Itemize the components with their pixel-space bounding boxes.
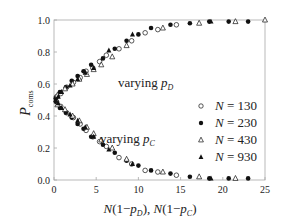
scatter-chart: 0.00.20.40.60.81.0 0510152025 varying pD… — [0, 0, 289, 224]
open-circle-marker — [174, 23, 179, 28]
y-axis-label: Pcoms — [18, 90, 35, 116]
filled-circle-marker — [101, 56, 106, 61]
filled-circle-marker — [188, 175, 193, 180]
x-tick-label: 20 — [218, 184, 228, 195]
y-tick-label: 0.6 — [38, 79, 51, 90]
open-circle-marker — [129, 39, 134, 44]
annotation-varying-pC: varying pC — [100, 131, 155, 148]
open-circle-marker — [156, 170, 161, 175]
open-triangle-marker — [233, 175, 238, 180]
filled-circle-marker — [199, 121, 203, 125]
open-triangle-marker — [197, 174, 202, 179]
open-circle-marker — [143, 31, 148, 36]
filled-circle-marker — [246, 19, 251, 24]
x-axis-label: N(1−pD), N(1−pC) — [103, 201, 197, 218]
legend-label: N = 130 — [214, 98, 257, 113]
legend-label: N = 930 — [214, 149, 257, 164]
legend-item: N = 930 — [199, 149, 257, 164]
open-triangle-marker — [262, 17, 267, 22]
y-tick-label: 0.0 — [38, 175, 51, 186]
legend-item: N = 230 — [199, 115, 257, 130]
x-tick-label: 25 — [260, 184, 270, 195]
filled-circle-marker — [226, 19, 231, 24]
open-circle-marker — [174, 173, 179, 178]
filled-circle-marker — [168, 171, 173, 176]
x-tick-label: 10 — [133, 184, 143, 195]
y-tick-label: 0.4 — [38, 111, 51, 122]
x-tick-label: 0 — [52, 184, 57, 195]
open-triangle-marker — [110, 54, 115, 59]
legend: N = 130N = 230N = 430N = 930 — [199, 98, 257, 164]
legend-label: N = 430 — [214, 132, 257, 147]
y-tick-label: 1.0 — [38, 15, 51, 26]
annotation-varying-pD: varying pD — [118, 75, 173, 92]
open-circle-marker — [117, 155, 122, 160]
open-triangle-marker — [124, 156, 129, 161]
open-circle-marker — [156, 27, 161, 32]
open-triangle-marker — [124, 43, 129, 48]
x-tick-label: 15 — [176, 184, 186, 195]
filled-triangle-marker — [130, 31, 135, 36]
filled-circle-marker — [149, 168, 154, 173]
filled-circle-marker — [246, 176, 251, 181]
filled-circle-marker — [112, 47, 117, 52]
filled-circle-marker — [188, 21, 193, 26]
open-triangle-marker — [160, 169, 165, 174]
open-triangle-marker — [233, 19, 238, 24]
open-circle-marker — [104, 53, 109, 58]
filled-circle-marker — [136, 32, 141, 37]
open-circle-marker — [143, 168, 148, 173]
open-triangle-marker — [197, 20, 202, 25]
open-triangle-marker — [199, 137, 204, 142]
filled-circle-marker — [112, 151, 117, 156]
filled-triangle-marker — [199, 154, 204, 159]
y-tick-label: 0.8 — [38, 47, 51, 58]
filled-circle-marker — [149, 26, 154, 31]
filled-circle-marker — [168, 23, 173, 28]
filled-circle-marker — [89, 63, 94, 68]
legend-label: N = 230 — [214, 115, 257, 130]
legend-item: N = 430 — [199, 132, 257, 147]
y-tick-label: 0.2 — [38, 143, 51, 154]
axis-labels: N(1−pD), N(1−pC) Pcoms — [18, 90, 197, 218]
filled-circle-marker — [136, 163, 141, 168]
filled-triangle-marker — [106, 47, 111, 52]
filled-circle-marker — [226, 176, 231, 181]
x-tick-label: 5 — [94, 184, 99, 195]
open-triangle-marker — [160, 25, 165, 30]
annotations: varying pD varying pC — [100, 75, 173, 148]
open-circle-marker — [199, 104, 203, 108]
open-circle-marker — [117, 47, 122, 52]
legend-item: N = 130 — [199, 98, 257, 113]
